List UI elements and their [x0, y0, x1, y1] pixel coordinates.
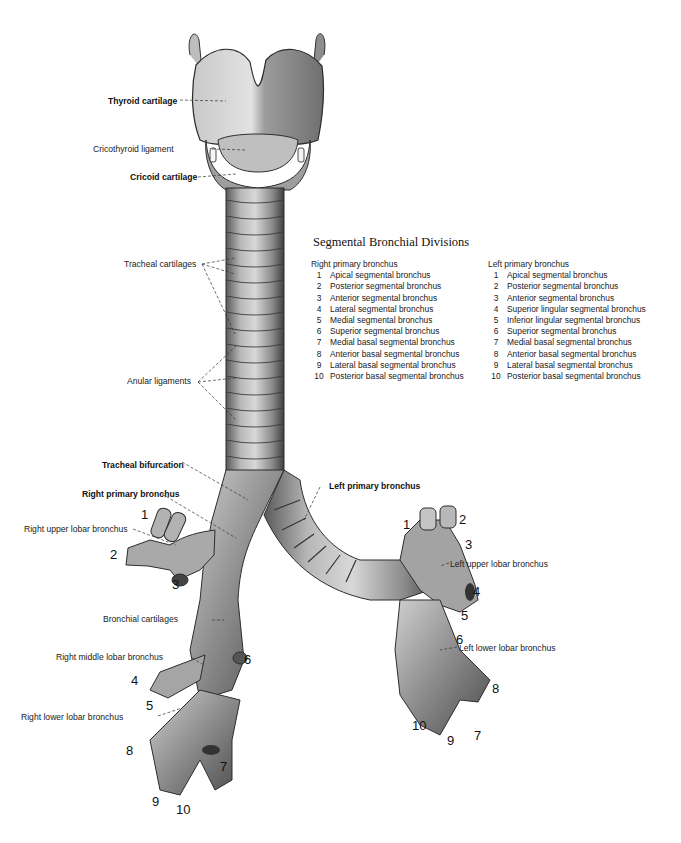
right-lower-lobe-branches — [150, 690, 240, 795]
legend-number: 3 — [311, 293, 327, 304]
legend-row: 9Lateral basal segmental bronchus — [311, 360, 464, 371]
legend-right-column: Right primary bronchus 1Apical segmental… — [311, 259, 464, 382]
right-segment-7: 7 — [220, 760, 227, 773]
right-bronchial-tree — [126, 470, 284, 795]
legend-row: 4Lateral segmental bronchus — [311, 304, 464, 315]
left-segment-6: 6 — [456, 633, 463, 646]
legend-text: Posterior basal segmental bronchus — [504, 371, 641, 382]
left-segment-8: 8 — [492, 682, 499, 695]
legend-right-heading: Right primary bronchus — [311, 259, 464, 270]
label-left-lower-lobar-bronchus: Left lower lobar bronchus — [459, 643, 556, 653]
legend-text: Lateral basal segmental bronchus — [504, 360, 633, 371]
legend-row: 9Lateral basal segmental bronchus — [488, 360, 646, 371]
legend-row: 8Anterior basal segmental bronchus — [488, 349, 646, 360]
legend-number: 5 — [488, 315, 504, 326]
legend-text: Posterior segmental bronchus — [504, 281, 618, 292]
legend-text: Apical segmental bronchus — [327, 270, 431, 281]
label-tracheal-cartilages: Tracheal cartilages — [124, 259, 196, 269]
legend-number: 10 — [311, 371, 327, 382]
legend-row: 5Medial segmental bronchus — [311, 315, 464, 326]
legend-row: 2Posterior segmental bronchus — [488, 281, 646, 292]
legend-number: 9 — [488, 360, 504, 371]
legend-row: 2Posterior segmental bronchus — [311, 281, 464, 292]
legend-text: Lateral basal segmental bronchus — [327, 360, 456, 371]
legend-row: 3Anterior segmental bronchus — [311, 293, 464, 304]
legend-number: 2 — [311, 281, 327, 292]
legend-row: 8Anterior basal segmental bronchus — [311, 349, 464, 360]
legend-number: 1 — [488, 270, 504, 281]
label-thyroid-cartilage: Thyroid cartilage — [108, 96, 177, 106]
right-segment-9: 9 — [152, 795, 159, 808]
right-segment-2: 2 — [110, 548, 117, 561]
label-left-upper-lobar-bronchus: Left upper lobar bronchus — [450, 559, 548, 569]
label-cricoid-cartilage: Cricoid cartilage — [130, 172, 197, 182]
legend-text: Medial basal segmental bronchus — [327, 337, 455, 348]
legend-number: 7 — [311, 337, 327, 348]
right-segment-8: 8 — [126, 744, 133, 757]
legend-row: 4Superior lingular segmental bronchus — [488, 304, 646, 315]
legend-row: 5Inferior lingular segmental bronchus — [488, 315, 646, 326]
legend-text: Apical segmental bronchus — [504, 270, 608, 281]
legend-number: 6 — [311, 326, 327, 337]
legend-number: 4 — [311, 304, 327, 315]
legend-number: 8 — [488, 349, 504, 360]
label-right-primary-bronchus: Right primary bronchus — [82, 489, 179, 499]
legend-text: Posterior segmental bronchus — [327, 281, 441, 292]
label-right-upper-lobar-bronchus: Right upper lobar bronchus — [24, 524, 128, 534]
legend-row: 10Posterior basal segmental bronchus — [488, 371, 646, 382]
legend-text: Anterior segmental bronchus — [327, 293, 437, 304]
label-tracheal-bifurcation: Tracheal bifurcation — [102, 460, 184, 470]
legend-text: Posterior basal segmental bronchus — [327, 371, 464, 382]
legend-text: Anterior basal segmental bronchus — [327, 349, 459, 360]
legend-row: 7Medial basal segmental bronchus — [311, 337, 464, 348]
legend-number: 5 — [311, 315, 327, 326]
legend-row: 10Posterior basal segmental bronchus — [311, 371, 464, 382]
legend-text: Anterior segmental bronchus — [504, 293, 614, 304]
larynx — [189, 34, 325, 190]
legend-number: 7 — [488, 337, 504, 348]
cricothyroid-ligament-shape — [218, 134, 298, 172]
legend-text: Medial segmental bronchus — [327, 315, 432, 326]
left-segment-2: 2 — [459, 513, 466, 526]
legend-number: 3 — [488, 293, 504, 304]
legend-number: 4 — [488, 304, 504, 315]
label-bronchial-cartilages: Bronchial cartilages — [103, 614, 178, 624]
legend-row: 6Superior segmental bronchus — [311, 326, 464, 337]
legend-number: 2 — [488, 281, 504, 292]
left-bronchial-tree — [264, 470, 490, 735]
right-segment-10: 10 — [176, 803, 190, 816]
right-segment-4: 4 — [131, 674, 138, 687]
label-cricothyroid-ligament: Cricothyroid ligament — [93, 144, 174, 154]
right-segment-5: 5 — [146, 699, 153, 712]
left-segment-4: 4 — [473, 585, 480, 598]
label-right-middle-lobar-bronchus: Right middle lobar bronchus — [56, 652, 163, 662]
right-segment-3: 3 — [172, 578, 179, 591]
legend-number: 10 — [488, 371, 504, 382]
legend-row: 1Apical segmental bronchus — [311, 270, 464, 281]
legend-text: Superior lingular segmental bronchus — [504, 304, 646, 315]
legend-left-heading: Left primary bronchus — [488, 259, 646, 270]
left-segment-7: 7 — [474, 729, 481, 742]
legend-number: 8 — [311, 349, 327, 360]
legend-title: Segmental Bronchial Divisions — [313, 235, 469, 250]
left-segment-9: 9 — [447, 734, 454, 747]
legend-text: Superior segmental bronchus — [504, 326, 616, 337]
right-segment-6: 6 — [244, 653, 251, 666]
legend-left-column: Left primary bronchus 1Apical segmental … — [488, 259, 646, 382]
legend-row: 7Medial basal segmental bronchus — [488, 337, 646, 348]
thyroid-cartilage-shape — [193, 49, 324, 148]
label-left-primary-bronchus: Left primary bronchus — [329, 481, 420, 491]
label-anular-ligaments: Anular ligaments — [127, 376, 191, 386]
legend-number: 6 — [488, 326, 504, 337]
right-segment-1: 1 — [141, 508, 148, 521]
left-segment-1: 1 — [403, 518, 410, 531]
legend-text: Superior segmental bronchus — [327, 326, 439, 337]
legend-text: Medial basal segmental bronchus — [504, 337, 632, 348]
left-segment-10: 10 — [412, 719, 426, 732]
legend-text: Lateral segmental bronchus — [327, 304, 433, 315]
legend-number: 1 — [311, 270, 327, 281]
legend-number: 9 — [311, 360, 327, 371]
left-lower-lobe-branches — [395, 600, 490, 735]
left-segment-3: 3 — [465, 538, 472, 551]
legend-row: 1Apical segmental bronchus — [488, 270, 646, 281]
